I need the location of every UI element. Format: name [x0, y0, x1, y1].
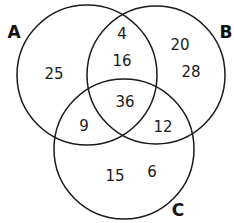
region-c-only-left: 15 — [105, 169, 124, 184]
region-ac-only: 9 — [79, 119, 89, 134]
region-c-only-right: 6 — [147, 165, 157, 180]
region-b-only-top: 20 — [170, 38, 189, 53]
set-label-a: A — [7, 24, 20, 41]
region-abc: 36 — [115, 95, 134, 110]
region-ab-bottom: 16 — [112, 54, 131, 69]
set-label-b: B — [220, 24, 233, 41]
region-bc-only: 12 — [153, 120, 172, 135]
set-label-c: C — [172, 202, 184, 219]
region-ab-top: 4 — [117, 27, 127, 42]
region-b-only-bottom: 28 — [181, 65, 200, 80]
region-a-only: 25 — [44, 67, 63, 82]
venn-diagram: A B C 25 20 28 4 16 36 9 12 15 6 — [0, 0, 234, 223]
